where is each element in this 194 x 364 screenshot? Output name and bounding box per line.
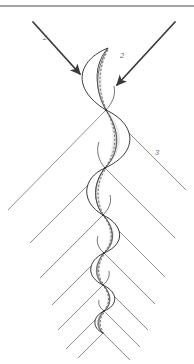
label-2-right: 2 [119, 51, 125, 60]
node-5 [102, 284, 104, 286]
lens-1-tail [106, 86, 115, 110]
label-2-left: 2 [42, 33, 48, 42]
lens-2 [98, 110, 130, 168]
arrow-right [117, 22, 175, 85]
node-6 [103, 310, 105, 312]
node-7 [102, 332, 103, 333]
node-1 [105, 109, 107, 111]
lens-4 [97, 215, 119, 253]
ray-family-left [8, 110, 106, 358]
lens-3 [87, 168, 111, 215]
arrow-left-shaft [33, 22, 80, 74]
arrow-left [33, 22, 80, 74]
lens-5 [91, 253, 110, 285]
lens-3-tail [103, 195, 111, 215]
node-2 [104, 167, 106, 169]
lens-6 [99, 285, 115, 311]
lens-2-tail [98, 142, 105, 168]
figure-canvas: 2 2 3 [0, 0, 194, 364]
caustic-chain-diagram: 2 2 3 [0, 0, 194, 364]
lens-4-tail [97, 236, 104, 253]
lens-6-tail [99, 300, 104, 311]
ray-left-7 [78, 333, 103, 358]
arrow-right-shaft [117, 22, 175, 85]
lens-7 [95, 311, 104, 333]
lens-1 [82, 48, 114, 110]
node-markers [102, 109, 107, 334]
node-4 [103, 252, 105, 254]
node-3 [102, 214, 104, 216]
ray-right-7 [103, 333, 130, 360]
label-3: 3 [155, 148, 160, 157]
lens-5-tail [103, 271, 109, 285]
